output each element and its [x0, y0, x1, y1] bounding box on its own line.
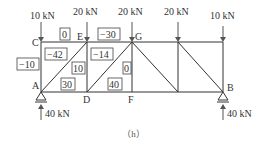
force-dg-diagonal: −14 — [91, 48, 113, 60]
svg-text:−30: −30 — [100, 29, 116, 40]
node-label-d: D — [83, 94, 90, 105]
node-label-f: F — [128, 94, 134, 105]
load-label-2: 20 kN — [73, 6, 98, 17]
load-label-5: 10 kN — [210, 10, 235, 21]
load-label-3: 20 kN — [118, 6, 143, 17]
diagonal-g-right — [132, 42, 178, 92]
force-gf-vertical: 0 — [123, 62, 131, 74]
svg-text:10: 10 — [73, 63, 83, 74]
svg-text:0: 0 — [124, 63, 129, 74]
reaction-label-a: 40 kN — [45, 108, 70, 119]
force-eg: −30 — [98, 28, 120, 40]
force-ac: −10 — [17, 58, 39, 70]
load-label-1: 10 kN — [30, 10, 55, 21]
node-label-g: G — [135, 31, 142, 42]
node-label-a: A — [32, 80, 40, 91]
pin-support-b — [218, 92, 228, 100]
svg-text:−10: −10 — [19, 59, 35, 70]
svg-text:30: 30 — [62, 79, 72, 90]
node-label-c: C — [32, 37, 39, 48]
reaction-label-b: 40 kN — [227, 108, 252, 119]
svg-text:−42: −42 — [47, 49, 63, 60]
diagonal-right-b — [178, 42, 223, 92]
force-ae-diagonal: −42 — [45, 48, 67, 60]
svg-text:0: 0 — [62, 29, 67, 40]
load-label-4: 20 kN — [164, 6, 189, 17]
figure-caption: （h） — [0, 127, 267, 140]
pin-support-a — [36, 92, 46, 100]
force-df: 40 — [108, 78, 122, 90]
force-ed-vertical: 10 — [72, 62, 85, 74]
force-ad: 30 — [61, 78, 75, 90]
node-label-e: E — [77, 31, 83, 42]
node-label-b: B — [227, 82, 234, 93]
svg-text:40: 40 — [109, 79, 119, 90]
svg-text:−14: −14 — [93, 49, 109, 60]
force-ce: 0 — [60, 28, 70, 40]
